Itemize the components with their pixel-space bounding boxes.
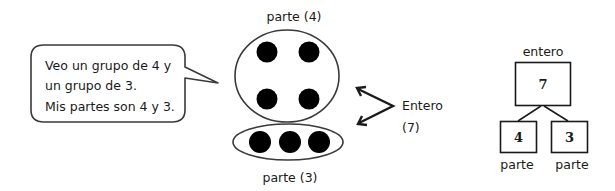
dot <box>257 89 278 110</box>
arrow-lines <box>358 89 393 123</box>
dot <box>299 42 320 63</box>
whole-label: Entero <box>402 98 443 113</box>
bond-whole-label: entero <box>523 44 564 59</box>
speech-bubble: Veo un grupo de 4 y un grupo de 3. Mis p… <box>31 45 218 122</box>
bond-whole-value: 7 <box>538 77 547 92</box>
dot <box>249 131 271 153</box>
bubble-line-3: Mis partes son 4 y 3. <box>45 99 175 114</box>
bubble-line-2: un grupo de 3. <box>45 78 137 93</box>
whole-value: (7) <box>402 120 420 135</box>
dot <box>279 131 301 153</box>
part-whole-diagram: Veo un grupo de 4 y un grupo de 3. Mis p… <box>0 0 615 191</box>
bond-part-value-left: 4 <box>514 130 523 145</box>
dot <box>308 131 330 153</box>
bond-line-right <box>544 106 568 121</box>
whole-arrows: Entero (7) <box>357 87 443 135</box>
bubble-line-1: Veo un grupo de 4 y <box>45 58 172 73</box>
number-bond: entero 7 4 3 parte parte <box>500 44 589 172</box>
part-four-label: parte (4) <box>266 9 321 24</box>
dot <box>257 42 278 63</box>
bond-line-left <box>518 106 541 121</box>
part-three-label: parte (3) <box>262 170 317 185</box>
bond-part-label-left: parte <box>500 157 534 172</box>
bond-part-value-right: 3 <box>565 130 574 145</box>
bond-part-label-right: parte <box>555 157 589 172</box>
dot <box>299 89 320 110</box>
group-of-four: parte (4) <box>235 9 339 122</box>
group-four-outline <box>235 30 339 122</box>
group-of-three: parte (3) <box>233 124 343 185</box>
